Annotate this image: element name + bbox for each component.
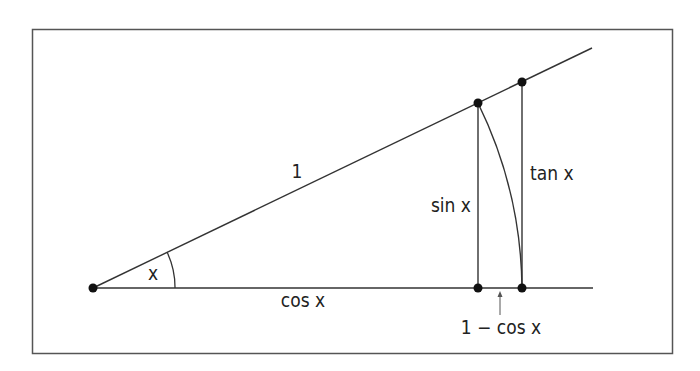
hypotenuse-ray bbox=[93, 48, 592, 288]
sin-top-point bbox=[474, 99, 483, 108]
sin-foot-point bbox=[474, 284, 483, 293]
label-adjacent: cos x bbox=[281, 289, 325, 311]
label-tangent: tan x bbox=[530, 162, 574, 184]
frame-border bbox=[33, 30, 673, 354]
tan-foot-point bbox=[518, 284, 527, 293]
label-angle: x bbox=[148, 262, 158, 284]
tan-top-point bbox=[518, 78, 527, 87]
angle-arc bbox=[167, 252, 175, 288]
trig-diagram: 1 x cos x sin x tan x 1 − cos x bbox=[0, 0, 700, 371]
label-opposite: sin x bbox=[431, 194, 471, 216]
unit-arc bbox=[478, 103, 522, 288]
label-hypotenuse: 1 bbox=[292, 160, 303, 182]
origin-point bbox=[89, 284, 98, 293]
label-difference: 1 − cos x bbox=[461, 316, 541, 338]
arrow-head-icon bbox=[498, 291, 503, 297]
